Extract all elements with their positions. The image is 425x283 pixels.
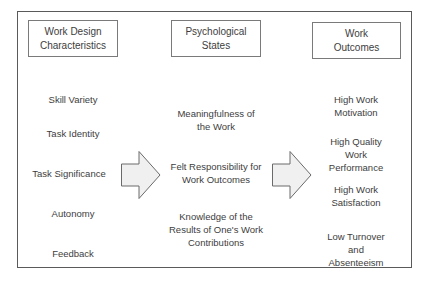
item-high-work-motivation: High Work Motivation (334, 93, 378, 119)
header-psychological-states: Psychological States (171, 20, 261, 57)
header-work-design-characteristics: Work Design Characteristics (28, 20, 118, 57)
item-felt-responsibility: Felt Responsibility for Work Outcomes (171, 160, 262, 186)
item-task-identity: Task Identity (47, 127, 100, 140)
item-skill-variety: Skill Variety (49, 93, 98, 106)
arrow-right-icon (120, 150, 162, 200)
header-work-outcomes: Work Outcomes (312, 22, 401, 59)
item-feedback: Feedback (52, 247, 94, 260)
item-high-quality-work-performance: High Quality Work Performance (322, 135, 391, 174)
item-knowledge-of-results: Knowledge of the Results of One's Work C… (169, 210, 263, 249)
item-high-work-satisfaction: High Work Satisfaction (331, 183, 380, 209)
arrow-right-icon (271, 150, 313, 200)
item-autonomy: Autonomy (52, 207, 95, 220)
item-low-turnover-absenteeism: Low Turnover and Absenteeism (322, 230, 391, 269)
item-task-significance: Task Significance (32, 167, 105, 180)
item-meaningfulness: Meaningfulness of the Work (177, 107, 254, 133)
